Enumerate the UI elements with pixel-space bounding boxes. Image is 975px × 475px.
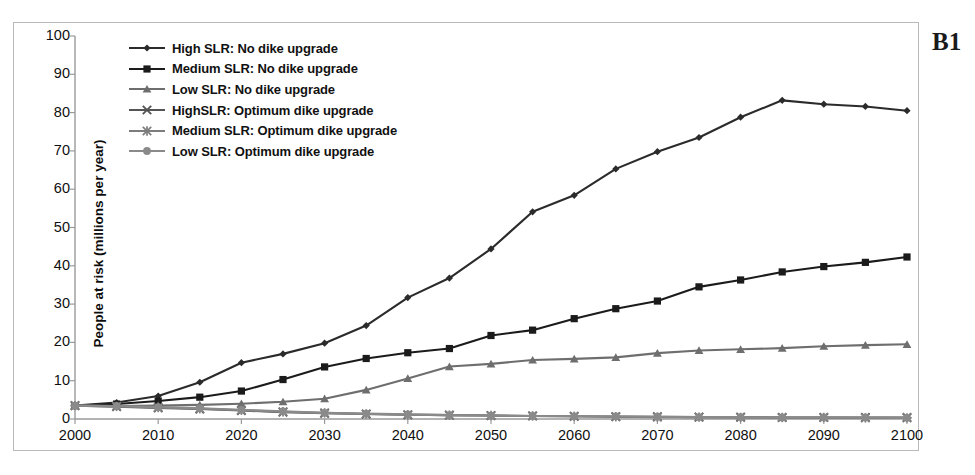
legend-item[interactable]: Medium SLR: Optimum dike upgrade [128,120,458,141]
x-tick-label: 2060 [539,427,609,443]
x-tick-label: 2040 [373,427,443,443]
legend-label: Medium SLR: Optimum dike upgrade [172,123,397,138]
legend-key-canvas [128,103,166,117]
data-point-circle [143,147,151,155]
legend-marker-triangle-icon [128,82,166,96]
legend-label: Low SLR: Optimum dike upgrade [172,144,374,159]
legend-marker-x-icon [128,103,166,117]
y-tick-label: 100 [34,27,70,43]
legend-item[interactable]: Medium SLR: No dike upgrade [128,59,458,80]
x-tick-label: 2090 [789,427,859,443]
legend-marker-circle-icon [128,144,166,158]
data-point-square [143,65,150,72]
x-tick-label: 2010 [123,427,193,443]
legend-item[interactable]: HighSLR: Optimum dike upgrade [128,100,458,121]
data-point-diamond [143,45,150,52]
legend-key-canvas [128,144,166,158]
x-tick-label: 2020 [206,427,276,443]
diamond-marker [143,45,150,52]
y-tick-label: 40 [34,257,70,273]
legend-key-canvas [128,82,166,96]
legend-key-canvas [128,62,166,76]
legend-marker-star-icon [128,124,166,138]
y-tick-label: 10 [34,372,70,388]
legend-item[interactable]: Low SLR: No dike upgrade [128,79,458,100]
circle-marker [143,147,151,155]
y-tick-label: 90 [34,65,70,81]
y-tick-label: 20 [34,333,70,349]
x-tick-label: 2030 [290,427,360,443]
y-tick-label: 50 [34,219,70,235]
y-tick-label: 30 [34,295,70,311]
legend-marker-diamond-icon [128,41,166,55]
legend-label: High SLR: No dike upgrade [172,41,338,56]
x-tick-label: 2080 [706,427,776,443]
legend-label: Low SLR: No dike upgrade [172,82,335,97]
square-marker [143,65,150,72]
legend-item[interactable]: Low SLR: Optimum dike upgrade [128,141,458,162]
y-axis-ticks: 0102030405060708090100 [26,36,70,419]
legend-label: HighSLR: Optimum dike upgrade [172,103,374,118]
legend-marker-square-icon [128,62,166,76]
x-axis-ticks: 2000201020202030204020502060207020802090… [75,427,907,453]
x-tick-label: 2100 [872,427,942,443]
y-axis-title: People at risk (millions per year) [91,79,106,409]
legend-label: Medium SLR: No dike upgrade [172,61,358,76]
y-tick-label: 60 [34,180,70,196]
legend-key-canvas [128,124,166,138]
chart-legend: High SLR: No dike upgradeMedium SLR: No … [128,38,458,162]
figure-container: B1 0102030405060708090100 20002010202020… [0,0,975,475]
y-tick-label: 80 [34,104,70,120]
x-tick-label: 2000 [40,427,110,443]
x-tick-label: 2050 [456,427,526,443]
legend-item[interactable]: High SLR: No dike upgrade [128,38,458,59]
legend-key-canvas [128,41,166,55]
y-tick-label: 0 [34,410,70,426]
data-point-star [142,126,151,135]
y-tick-label: 70 [34,142,70,158]
x-tick-label: 2070 [622,427,692,443]
